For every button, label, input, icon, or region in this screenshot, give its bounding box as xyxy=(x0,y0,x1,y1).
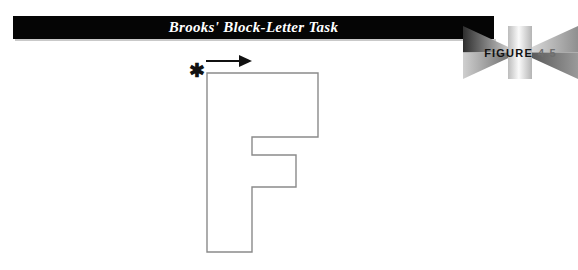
direction-arrow-icon xyxy=(206,55,252,67)
figure-page: Brooks' Block-Letter Task xyxy=(0,0,578,270)
page-title: Brooks' Block-Letter Task xyxy=(13,16,494,39)
figure-word: FIGURE xyxy=(484,47,533,59)
figure-number: 4.5 xyxy=(538,47,557,59)
letter-f-outline xyxy=(207,73,318,252)
figure-badge-label: FIGURE 4.5 xyxy=(463,26,578,79)
banner-drop-shadow xyxy=(15,39,496,41)
figure-badge: FIGURE 4.5 xyxy=(463,26,578,79)
title-banner: Brooks' Block-Letter Task xyxy=(13,16,494,39)
asterisk-start-point: ✱ xyxy=(189,62,205,80)
block-letter-diagram xyxy=(190,52,350,262)
